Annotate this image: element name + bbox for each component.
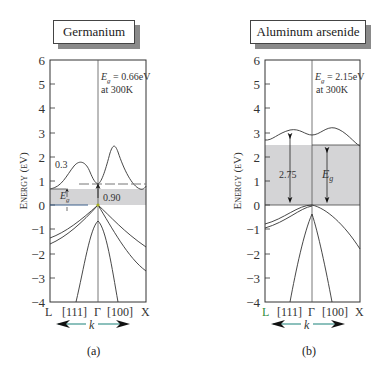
svg-text:4: 4 [39, 101, 46, 116]
svg-text:0: 0 [254, 198, 261, 213]
svg-text:2: 2 [254, 150, 261, 165]
bandgap-value-label: Eg = 2.15eV [314, 71, 365, 85]
svg-text:[100]: [100] [322, 305, 348, 319]
svg-text:−1: −1 [31, 222, 45, 237]
svg-text:−4: −4 [31, 295, 45, 310]
svg-text:Γ: Γ [308, 305, 315, 319]
svg-text:−1: −1 [246, 222, 260, 237]
split-off-band [290, 214, 332, 302]
svg-text:[111]: [111] [277, 305, 302, 319]
caption-b: (b) [302, 344, 316, 359]
annotation-0-90: 0.90 [103, 192, 121, 203]
temperature-label: at 300K [316, 84, 349, 95]
svg-text:1: 1 [254, 174, 261, 189]
svg-text:L: L [262, 305, 269, 319]
temperature-label: at 300K [101, 84, 134, 95]
split-off-band [76, 221, 118, 302]
k-arrow: k [271, 318, 345, 332]
panel-germanium: 0.3 0.90 Eg Eg = 0.66eV at 300K 6 5 4 3 … [17, 53, 151, 332]
annotation-2-75: 2.75 [279, 169, 297, 180]
svg-text:0: 0 [39, 198, 46, 213]
svg-text:[111]: [111] [62, 305, 87, 319]
y-tick-labels: 6 5 4 3 2 1 0 −1 −2 −3 −4 [31, 53, 45, 310]
svg-text:Γ: Γ [94, 305, 101, 319]
svg-text:−3: −3 [31, 271, 45, 286]
annotation-0-3: 0.3 [55, 159, 68, 170]
x-tick-labels: L [111] Γ [100] X [262, 305, 364, 319]
svg-text:X: X [355, 305, 364, 319]
y-axis-label: Energy (eV) [17, 152, 30, 210]
svg-text:6: 6 [39, 53, 46, 68]
bandgap-value-label: Eg = 0.66eV [100, 71, 151, 85]
svg-text:4: 4 [254, 101, 261, 116]
svg-text:−4: −4 [246, 295, 260, 310]
svg-text:−3: −3 [246, 271, 260, 286]
panel-aluminum-arsenide: 2.75 Eg Eg = 2.15eV at 300K 6 5 4 3 2 1 … [231, 53, 365, 332]
svg-text:k: k [89, 318, 95, 332]
svg-text:3: 3 [39, 126, 46, 141]
svg-text:5: 5 [254, 77, 261, 92]
svg-text:X: X [141, 305, 150, 319]
k-arrow: k [56, 318, 130, 332]
svg-text:2: 2 [39, 150, 46, 165]
y-ticks [50, 84, 55, 278]
svg-text:5: 5 [39, 77, 46, 92]
svg-text:[100]: [100] [107, 305, 133, 319]
valence-band-heavy [265, 205, 360, 249]
x-tick-labels: L [111] Γ [100] X [45, 305, 150, 319]
y-ticks [265, 84, 270, 278]
svg-text:L: L [45, 305, 52, 319]
valence-band-light [265, 206, 312, 228]
caption-a: (a) [87, 344, 100, 359]
y-tick-labels: 6 5 4 3 2 1 0 −1 −2 −3 −4 [246, 53, 260, 310]
band-structure-diagram: 0.3 0.90 Eg Eg = 0.66eV at 300K 6 5 4 3 … [0, 0, 391, 372]
conduction-band [265, 128, 360, 146]
y-axis-label: Energy (eV) [231, 152, 244, 210]
svg-text:−2: −2 [246, 247, 260, 262]
svg-text:6: 6 [254, 53, 261, 68]
svg-text:3: 3 [254, 126, 261, 141]
svg-text:−2: −2 [31, 247, 45, 262]
svg-text:k: k [304, 318, 310, 332]
svg-text:1: 1 [39, 174, 46, 189]
